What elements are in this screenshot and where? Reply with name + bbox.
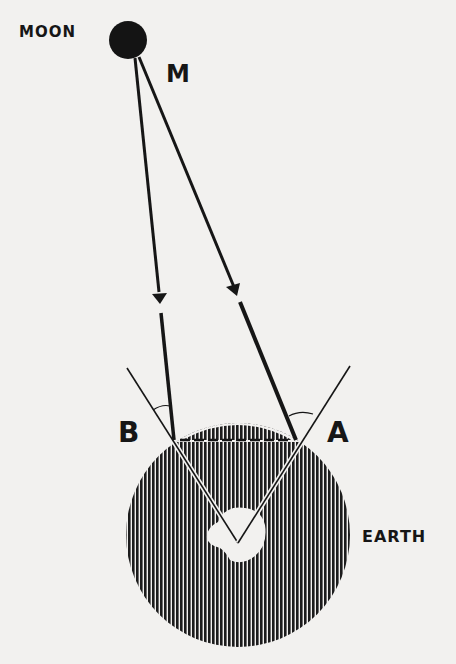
angle-arc-a — [289, 412, 313, 416]
arrow-head-b — [152, 293, 167, 304]
label-m: M — [166, 62, 190, 86]
label-a: A — [327, 419, 349, 447]
earth-cap — [182, 425, 292, 440]
label-b: B — [118, 419, 139, 447]
parallax-diagram — [0, 0, 456, 664]
label-moon: MOON — [19, 25, 76, 40]
ray-moon-to-a — [139, 57, 296, 440]
label-earth: EARTH — [362, 529, 426, 545]
ray-moon-to-b — [135, 58, 174, 440]
moon-disc — [109, 21, 147, 59]
